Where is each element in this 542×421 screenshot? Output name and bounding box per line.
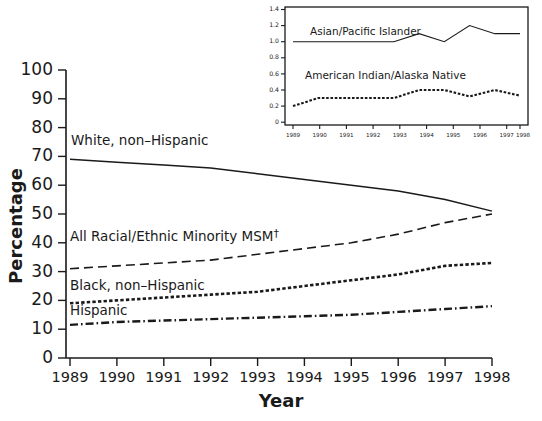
inset-y-tick-label: 1.0 (269, 37, 279, 44)
x-tick-label: 1996 (380, 369, 417, 385)
x-axis-title: Year (258, 390, 304, 411)
y-tick-label: 60 (31, 174, 53, 194)
inset-y-tick-label: 1.2 (269, 21, 279, 28)
inset-x-tick-label: 1996 (473, 132, 488, 138)
inset-y-tick-label: 0.4 (269, 86, 279, 93)
x-tick-label: 1998 (474, 369, 511, 385)
y-tick-label: 80 (31, 117, 53, 137)
x-tick-label: 1991 (145, 369, 182, 385)
x-tick-label: 1992 (192, 369, 229, 385)
inset-x-tick-label: 1995 (446, 132, 461, 138)
inset-y-tick-label: 0.8 (269, 53, 279, 60)
inset-x-tick-label: 1992 (366, 132, 380, 138)
chart-figure: 100 90 80 70 60 50 40 30 20 10 0 (0, 0, 542, 421)
inset-series-label-asian: Asian/Pacific Islander (310, 25, 422, 37)
series-label-minority: All Racial/Ethnic Minority MSM† (70, 227, 279, 244)
inset-x-tick-label: 1990 (313, 132, 328, 138)
inset-x-tick-label: 1991 (339, 132, 354, 138)
y-tick-label: 90 (31, 88, 53, 108)
x-tick-label: 1989 (52, 369, 89, 385)
x-tick-label: 1990 (98, 369, 135, 385)
x-tick-label: 1993 (239, 369, 276, 385)
y-tick-label: 100 (21, 59, 53, 79)
inset-x-tick-label: 1989 (286, 132, 301, 138)
inset-y-tick-label: 0 (275, 118, 279, 125)
inset-series-label-native: American Indian/Alaska Native (305, 69, 466, 81)
y-tick-label: 50 (31, 203, 53, 223)
y-tick-label: 10 (31, 318, 53, 338)
series-label-white: White, non–Hispanic (71, 132, 208, 148)
inset-y-tick-label: 1.4 (269, 5, 279, 12)
y-tick-label: 30 (31, 261, 53, 281)
inset-x-tick-label: 1998 (516, 132, 531, 138)
series-label-black: Black, non–Hispanic (70, 277, 205, 293)
series-label-hispanic: Hispanic (70, 302, 128, 318)
x-tick-label: 1995 (333, 369, 370, 385)
y-tick-label: 70 (31, 145, 53, 165)
inset-plot: 1.4 1.2 1.0 0.8 0.6 0.4 0.2 0 (269, 5, 530, 138)
y-axis-title: Percentage (5, 168, 26, 284)
inset-x-tick-label: 1997 (500, 132, 515, 138)
y-tick-label: 40 (31, 232, 53, 252)
inset-x-tick-label: 1994 (419, 132, 434, 138)
y-tick-label: 20 (31, 289, 53, 309)
inset-y-tick-label: 0.6 (269, 70, 279, 77)
x-tick-label: 1994 (286, 369, 323, 385)
inset-y-tick-label: 0.2 (269, 102, 279, 109)
y-tick-label: 0 (42, 347, 53, 367)
chart-canvas: 100 90 80 70 60 50 40 30 20 10 0 (0, 0, 542, 421)
inset-x-tick-label: 1993 (393, 132, 408, 138)
x-tick-label: 1997 (427, 369, 464, 385)
series-label-minority-group: All Racial/Ethnic Minority MSM† (70, 227, 279, 244)
